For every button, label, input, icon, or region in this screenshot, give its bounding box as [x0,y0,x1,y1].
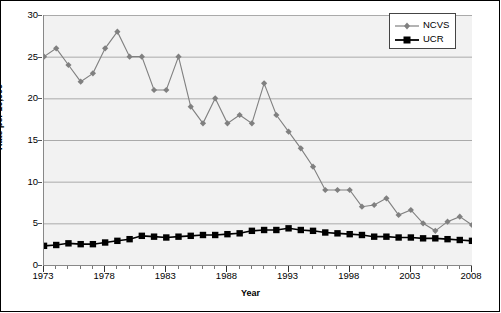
y-tick-label: 5 [10,218,38,228]
data-point-diamond [127,54,133,60]
x-tick-minor [324,266,325,269]
x-tick-minor [116,266,117,269]
x-tick-minor [398,266,399,269]
y-tick-mark [38,140,42,141]
data-point-diamond [334,187,340,193]
y-tick-mark [38,98,42,99]
data-point-diamond [90,70,96,76]
legend-label-ucr: UCR [423,33,444,44]
x-tick-minor [385,266,386,269]
data-point-square [90,241,96,247]
data-point-square [444,236,450,242]
data-point-square [261,227,267,233]
x-tick-minor [141,266,142,269]
data-point-diamond [139,54,145,60]
legend-item-ncvs: NCVS [394,17,449,31]
data-point-square [126,236,132,242]
data-point-square [139,233,145,239]
x-tick-minor [300,266,301,269]
y-tick-mark [38,182,42,183]
data-point-diamond [261,80,267,86]
x-tick-label: 1983 [141,270,189,281]
x-tick-label: 2008 [447,270,495,281]
data-point-diamond [151,87,157,93]
y-axis-tick-labels: 051015202530 [8,15,38,265]
data-point-square [383,233,389,239]
data-point-square [102,239,108,245]
data-point-square [334,230,340,236]
x-tick-minor [263,266,264,269]
legend-label-ncvs: NCVS [423,19,449,30]
x-tick-minor [55,266,56,269]
chart-legend: NCVS UCR [389,13,456,49]
data-point-square [77,241,83,247]
y-tick-label: 25 [10,52,38,62]
data-point-square [322,229,328,235]
series-line [44,32,472,231]
data-point-diamond [322,187,328,193]
x-tick-minor [202,266,203,269]
data-point-square [273,227,279,233]
plot-area [43,15,472,266]
data-point-square [236,230,242,236]
data-point-diamond [163,87,169,93]
y-tick-mark [38,15,42,16]
data-point-diamond [212,95,218,101]
x-tick-minor [459,266,460,269]
x-tick-minor [373,266,374,269]
data-point-diamond [457,214,463,220]
x-axis-tick-labels: 19731978198319881993199820032008 [43,270,471,286]
data-point-square [163,234,169,240]
data-point-square [200,232,206,238]
x-tick-minor [275,266,276,269]
data-point-square [347,231,353,237]
data-point-square [359,232,365,238]
data-point-square [371,233,377,239]
data-point-diamond [237,112,243,118]
x-axis-title: Year [0,288,501,298]
x-tick-minor [80,266,81,269]
data-point-square [285,225,291,231]
x-tick-minor [447,266,448,269]
x-tick-minor [312,266,313,269]
data-point-square [151,233,157,239]
x-tick-minor [251,266,252,269]
data-point-square [457,237,463,243]
y-tick-mark [38,57,42,58]
data-point-diamond [249,120,255,126]
y-tick-label: 10 [10,177,38,187]
x-tick-minor [153,266,154,269]
data-point-square [408,234,414,240]
y-tick-mark [38,265,42,266]
x-tick-minor [422,266,423,269]
data-point-square [420,235,426,241]
data-point-diamond [310,164,316,170]
x-tick-minor [190,266,191,269]
data-point-square [53,242,59,248]
plot-svg [44,15,472,265]
x-tick-minor [67,266,68,269]
data-point-square [212,232,218,238]
x-tick-label: 1998 [325,270,373,281]
series-ucr [44,225,472,249]
data-point-square [224,231,230,237]
data-point-square [114,238,120,244]
chart-figure: Rate per 10,000 051015202530 19731978198… [0,0,501,313]
data-point-square [175,233,181,239]
x-tick-minor [434,266,435,269]
data-point-square [188,233,194,239]
legend-item-ucr: UCR [394,31,449,45]
x-tick-label: 1973 [19,270,67,281]
y-tick-label: 30 [10,10,38,20]
data-point-square [298,227,304,233]
y-tick-label: 0 [10,260,38,270]
data-point-square [65,240,71,246]
x-tick-minor [129,266,130,269]
data-point-square [469,238,472,244]
x-tick-minor [214,266,215,269]
y-axis-title: Rate per 10,000 [0,57,4,177]
x-tick-minor [361,266,362,269]
data-point-square [249,228,255,234]
legend-swatch-ucr-square-icon [394,32,420,44]
y-tick-label: 15 [10,135,38,145]
